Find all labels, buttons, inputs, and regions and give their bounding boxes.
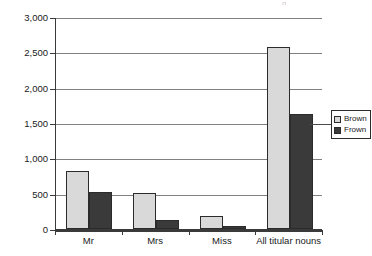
y-tick-label: 0 bbox=[0, 225, 48, 235]
bar-chart: g 05001,0001,5002,0002,5003,000 MrMrsMis… bbox=[0, 0, 372, 256]
y-tick-label: 1,500 bbox=[0, 119, 48, 129]
x-tick-label: Miss bbox=[189, 236, 256, 246]
bar-frown-mr bbox=[89, 192, 112, 229]
legend-item-frown: Frown bbox=[334, 125, 367, 135]
x-tick-mark bbox=[122, 230, 123, 235]
y-tick-label: 3,000 bbox=[0, 13, 48, 23]
bar-frown-miss bbox=[223, 226, 246, 229]
bar-brown-miss bbox=[200, 216, 223, 229]
legend-leader-line bbox=[310, 124, 331, 125]
legend-label: Brown bbox=[344, 115, 367, 123]
x-tick-mark bbox=[322, 230, 323, 235]
y-tick-label: 2,000 bbox=[0, 84, 48, 94]
y-tick-label: 500 bbox=[0, 190, 48, 200]
bar-frown-all-titular-nouns bbox=[290, 114, 313, 229]
bar-brown-mrs bbox=[133, 193, 156, 229]
bar-brown-mr bbox=[66, 171, 89, 229]
top-edge-artifact: g bbox=[282, 0, 286, 5]
x-tick-mark bbox=[55, 230, 56, 235]
y-tick-label: 2,500 bbox=[0, 48, 48, 58]
x-tick-label: All titular nouns bbox=[255, 236, 322, 246]
y-tick-label: 1,000 bbox=[0, 154, 48, 164]
bar-brown-all-titular-nouns bbox=[267, 47, 290, 229]
x-tick-mark bbox=[189, 230, 190, 235]
legend-swatch-icon bbox=[334, 116, 341, 123]
x-tick-label: Mr bbox=[55, 236, 122, 246]
legend-label: Frown bbox=[344, 126, 366, 134]
bar-frown-mrs bbox=[156, 220, 179, 229]
legend: BrownFrown bbox=[331, 110, 371, 139]
legend-swatch-icon bbox=[334, 127, 341, 134]
gridline-3000 bbox=[56, 18, 322, 19]
legend-item-brown: Brown bbox=[334, 114, 367, 124]
x-tick-label: Mrs bbox=[122, 236, 189, 246]
plot-area bbox=[55, 18, 322, 230]
